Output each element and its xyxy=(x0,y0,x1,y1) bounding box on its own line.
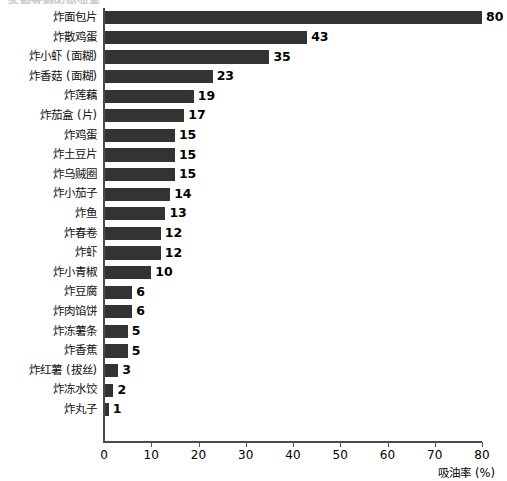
bar xyxy=(104,325,128,338)
bar-track: 35 xyxy=(104,47,507,67)
bar-track: 5 xyxy=(104,322,507,342)
x-axis-title: 吸油率 (%) xyxy=(438,464,495,480)
bar-value-label: 35 xyxy=(273,50,290,64)
bar-row: 炸红薯 (拔丝)3 xyxy=(0,361,507,381)
bar-row: 炸莲藕19 xyxy=(0,86,507,106)
bar-value-label: 15 xyxy=(179,128,196,142)
bar xyxy=(104,266,151,279)
bar-value-label: 13 xyxy=(169,206,186,220)
bar-track: 10 xyxy=(104,263,507,283)
bar-value-label: 1 xyxy=(113,402,122,416)
x-axis-tick-label: 40 xyxy=(285,448,300,462)
bar xyxy=(104,90,194,103)
bar-row: 炸小茄子14 xyxy=(0,184,507,204)
bar-value-label: 80 xyxy=(486,10,503,24)
bar xyxy=(104,207,165,220)
bar-row: 炸香菇 (面糊)23 xyxy=(0,67,507,87)
category-label: 炸冻薯条 xyxy=(0,322,100,342)
bar-row: 炸鸡蛋15 xyxy=(0,126,507,146)
bar xyxy=(104,70,213,83)
category-label: 炸冻水饺 xyxy=(0,380,100,400)
category-label: 炸小茄子 xyxy=(0,184,100,204)
bar-row: 炸丸子1 xyxy=(0,400,507,420)
bar xyxy=(104,129,175,142)
bar-value-label: 5 xyxy=(132,324,141,338)
bar-value-label: 14 xyxy=(174,187,191,201)
bar-track: 1 xyxy=(104,400,507,420)
x-axis-tick-label: 0 xyxy=(100,448,108,462)
bar xyxy=(104,246,161,259)
plot-area: 炸面包片80炸散鸡蛋43炸小虾 (面糊)35炸香菇 (面糊)23炸莲藕19炸茄盒… xyxy=(0,8,507,440)
bar-row: 炸虾12 xyxy=(0,243,507,263)
bar-value-label: 12 xyxy=(165,246,182,260)
category-label: 炸茄盒 (片) xyxy=(0,106,100,126)
x-axis-tick xyxy=(340,442,341,447)
bar-row: 炸冻水饺2 xyxy=(0,380,507,400)
category-label: 炸丸子 xyxy=(0,400,100,420)
bar-row: 炸豆腐6 xyxy=(0,282,507,302)
bar-track: 14 xyxy=(104,184,507,204)
bar-row: 炸乌贼圈15 xyxy=(0,165,507,185)
category-label: 炸香菇 (面糊) xyxy=(0,67,100,87)
bar-row: 炸土豆片15 xyxy=(0,145,507,165)
x-axis-tick-label: 10 xyxy=(144,448,159,462)
category-label: 炸小青椒 xyxy=(0,263,100,283)
bar-row: 炸面包片80 xyxy=(0,8,507,28)
bar-track: 80 xyxy=(104,8,507,28)
bar-value-label: 15 xyxy=(179,148,196,162)
category-label: 炸小虾 (面糊) xyxy=(0,47,100,67)
bar-track: 2 xyxy=(104,380,507,400)
x-axis-tick xyxy=(246,442,247,447)
category-label: 炸鱼 xyxy=(0,204,100,224)
bar-track: 15 xyxy=(104,145,507,165)
bar-track: 3 xyxy=(104,361,507,381)
bar-value-label: 15 xyxy=(179,167,196,181)
bar-track: 23 xyxy=(104,67,507,87)
bar-value-label: 6 xyxy=(136,285,145,299)
x-axis-tick xyxy=(151,442,152,447)
bar-track: 17 xyxy=(104,106,507,126)
x-axis-tick xyxy=(293,442,294,447)
bar-row: 炸小虾 (面糊)35 xyxy=(0,47,507,67)
bar-chart: 各种食物的吸油率 炸面包片80炸散鸡蛋43炸小虾 (面糊)35炸香菇 (面糊)2… xyxy=(0,0,507,481)
x-axis-tick xyxy=(482,442,483,447)
y-axis-line xyxy=(103,8,105,442)
bar-value-label: 2 xyxy=(117,383,126,397)
bar-track: 12 xyxy=(104,224,507,244)
bar-value-label: 43 xyxy=(311,30,328,44)
bar-row: 炸散鸡蛋43 xyxy=(0,28,507,48)
category-label: 炸豆腐 xyxy=(0,282,100,302)
bar xyxy=(104,403,109,416)
category-label: 炸乌贼圈 xyxy=(0,165,100,185)
bar-value-label: 5 xyxy=(132,344,141,358)
bar-track: 43 xyxy=(104,28,507,48)
category-label: 炸红薯 (拔丝) xyxy=(0,361,100,381)
bar-value-label: 12 xyxy=(165,226,182,240)
category-label: 炸鸡蛋 xyxy=(0,126,100,146)
x-axis-tick xyxy=(199,442,200,447)
bar xyxy=(104,50,269,63)
bar-value-label: 23 xyxy=(217,69,234,83)
category-label: 炸虾 xyxy=(0,243,100,263)
x-axis-tick xyxy=(388,442,389,447)
x-axis-tick-label: 20 xyxy=(191,448,206,462)
bar xyxy=(104,168,175,181)
bar-row: 炸香蕉5 xyxy=(0,341,507,361)
bar-track: 12 xyxy=(104,243,507,263)
bar xyxy=(104,286,132,299)
bar-track: 15 xyxy=(104,126,507,146)
bar-value-label: 6 xyxy=(136,304,145,318)
bar-row: 炸小青椒10 xyxy=(0,263,507,283)
bar xyxy=(104,227,161,240)
bar-value-label: 10 xyxy=(155,265,172,279)
bar-row: 炸冻薯条5 xyxy=(0,322,507,342)
bar xyxy=(104,148,175,161)
bar xyxy=(104,364,118,377)
bar xyxy=(104,11,482,24)
bar-track: 15 xyxy=(104,165,507,185)
bar-track: 6 xyxy=(104,302,507,322)
category-label: 炸香蕉 xyxy=(0,341,100,361)
bar-row: 炸鱼13 xyxy=(0,204,507,224)
bar-value-label: 3 xyxy=(122,363,131,377)
bar xyxy=(104,384,113,397)
